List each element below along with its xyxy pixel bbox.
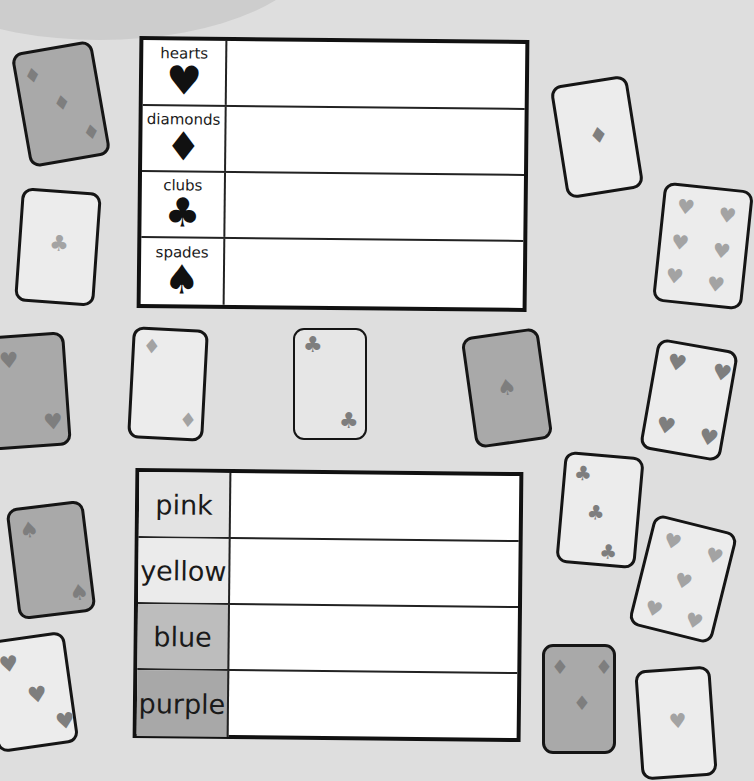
tally-cell-yellow[interactable]: [230, 539, 519, 606]
club-icon: ♣: [586, 502, 606, 523]
heart-icon: ♥: [43, 411, 64, 434]
tally-cell-clubs[interactable]: [225, 173, 524, 240]
heart-icon: ♥: [668, 710, 687, 731]
diamond-icon: ♦: [165, 127, 201, 165]
suit-label: diamonds ♦: [142, 106, 227, 171]
tally-cell-spades[interactable]: [225, 239, 524, 308]
diamond-icon: ♦: [22, 64, 43, 87]
diamond-icon: ♦: [179, 410, 198, 431]
playing-card[interactable]: ♥ ♥ ♥: [0, 631, 79, 753]
tally-cell-pink[interactable]: [231, 473, 520, 540]
club-icon: ♣: [339, 410, 359, 432]
diamond-icon: ♦: [587, 123, 610, 148]
heart-icon: ♥: [683, 609, 705, 633]
tally-cell-hearts[interactable]: [227, 41, 526, 108]
playing-card[interactable]: ♣: [14, 187, 102, 306]
playing-card[interactable]: ♦: [550, 75, 645, 200]
heart-icon: ♥: [665, 265, 685, 287]
spade-icon: ♠: [496, 376, 519, 401]
color-row-pink: pink: [139, 472, 520, 542]
suit-label: spades ♠: [141, 238, 226, 305]
heart-icon: ♥: [710, 361, 733, 386]
playing-card[interactable]: ♥: [634, 665, 717, 780]
heart-icon: ♥: [697, 425, 720, 450]
playing-card[interactable]: ♦ ♦: [127, 326, 209, 442]
heart-icon: ♥: [706, 274, 726, 296]
color-label: purple: [137, 670, 230, 737]
suit-label: hearts ♥: [143, 40, 228, 105]
diamond-icon: ♦: [551, 657, 569, 677]
heart-icon: ♥: [654, 414, 677, 439]
playing-card[interactable]: ♠: [461, 327, 554, 449]
diamond-icon: ♦: [51, 91, 72, 114]
suit-row-clubs: clubs ♣: [141, 172, 524, 242]
playing-card[interactable]: ♦ ♦ ♦: [542, 644, 616, 754]
club-icon: ♣: [48, 232, 69, 255]
playing-card[interactable]: ♥ ♥ ♥ ♥ ♥: [627, 513, 738, 644]
club-icon: ♣: [573, 463, 593, 484]
club-icon: ♣: [599, 541, 619, 562]
spade-icon: ♠: [18, 518, 40, 542]
diamond-icon: ♦: [595, 657, 613, 677]
club-icon: ♣: [164, 193, 200, 231]
tally-cell-blue[interactable]: [229, 605, 518, 672]
heart-icon: ♥: [670, 232, 690, 254]
heart-icon: ♥: [703, 544, 725, 568]
color-label: pink: [139, 472, 232, 537]
playing-card[interactable]: ♣ ♣ ♣: [555, 451, 644, 570]
suit-row-diamonds: diamonds ♦: [142, 106, 525, 176]
playing-card[interactable]: ♥ ♥ ♥ ♥: [639, 338, 739, 463]
playing-card[interactable]: ♦ ♦ ♦: [11, 40, 112, 168]
suit-row-spades: spades ♠: [141, 238, 524, 308]
heart-icon: ♥: [712, 240, 732, 262]
suit-row-hearts: hearts ♥: [143, 40, 526, 110]
diamond-icon: ♦: [142, 336, 161, 357]
heart-icon: ♥: [676, 196, 696, 218]
heart-icon: ♥: [665, 351, 688, 376]
color-label: blue: [137, 604, 230, 669]
heart-icon: ♥: [0, 350, 19, 373]
heart-icon: ♥: [54, 709, 77, 734]
playing-card[interactable]: ♥ ♥ ♥ ♥ ♥ ♥: [652, 182, 754, 311]
color-row-purple: purple: [137, 670, 518, 740]
heart-icon: ♥: [672, 569, 694, 593]
diamond-icon: ♦: [573, 693, 591, 713]
heart-icon: ♥: [26, 683, 49, 708]
playing-card[interactable]: ♠ ♠: [5, 500, 96, 621]
color-label: yellow: [138, 538, 231, 603]
tally-cell-diamonds[interactable]: [226, 107, 525, 174]
heart-icon: ♥: [662, 530, 684, 554]
color-tally-table: pink yellow blue purple: [133, 468, 524, 742]
decorative-shape: [0, 0, 320, 40]
diamond-icon: ♦: [81, 121, 102, 144]
heart-icon: ♥: [166, 61, 202, 99]
spade-icon: ♠: [68, 581, 90, 605]
heart-icon: ♥: [0, 653, 20, 678]
color-row-blue: blue: [137, 604, 518, 674]
playing-card[interactable]: ♥ ♥: [0, 331, 72, 450]
heart-icon: ♥: [717, 204, 737, 226]
color-row-yellow: yellow: [138, 538, 519, 608]
heart-icon: ♥: [643, 597, 665, 621]
playing-card[interactable]: ♣ ♣: [293, 328, 367, 440]
suit-tally-table: hearts ♥ diamonds ♦ clubs ♣ spades ♠: [137, 36, 530, 312]
suit-label: clubs ♣: [141, 172, 226, 237]
spade-icon: ♠: [164, 260, 200, 298]
club-icon: ♣: [303, 334, 323, 356]
tally-cell-purple[interactable]: [229, 671, 518, 740]
